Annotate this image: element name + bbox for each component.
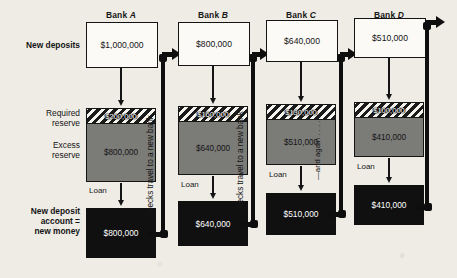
bank-a-new-deposit-box: $1,000,000 — [86, 22, 158, 68]
checks-travel-label-b-to-c: Checks travel to a new bank — [236, 111, 245, 214]
bank-column-d: Bank D $510,000 $100,000 $410,000 Loan $… — [346, 0, 432, 278]
money-multiplier-diagram: New deposits Required reserve Excess res… — [0, 0, 457, 278]
bank-c-title: Bank C — [258, 10, 344, 20]
bank-b-title: Bank B — [170, 10, 256, 20]
caption-required-reserve-line2: reserve — [4, 118, 80, 128]
bank-b-loan-arrow — [212, 176, 214, 194]
bank-column-c: Bank C $640,000 $130,000 $510,000 Loan $… — [258, 0, 344, 278]
bank-b-loan-label: Loan — [181, 180, 199, 189]
caption-excess-reserve: Excess reserve — [4, 140, 80, 160]
caption-new-deposit-account-line1: New deposit — [4, 206, 80, 216]
caption-new-deposit-account: New deposit account = new money — [4, 206, 80, 236]
caption-required-reserve-line1: Required — [4, 108, 80, 118]
bank-c-deposit-to-reserve-arrow — [300, 62, 302, 97]
bank-c-new-money-box: $510,000 — [266, 193, 336, 235]
caption-new-deposit-account-line2: account = — [4, 216, 80, 226]
bank-c-title-prefix: Bank — [286, 10, 310, 20]
checks-travel-label-a-to-b: Checks travel to a new bank — [146, 115, 155, 218]
bank-a-loan-arrow — [120, 183, 122, 201]
and-again-label: —and again . . . . . — [313, 116, 322, 180]
bank-d-new-money-box: $410,000 — [354, 185, 424, 225]
bank-d-reserve-stack: $100,000 $410,000 — [354, 102, 424, 157]
bank-a-required-reserve: $200,000 — [87, 109, 155, 124]
bank-d-deposit-to-reserve-arrow — [388, 58, 390, 95]
bank-d-required-reserve: $100,000 — [355, 103, 423, 118]
bank-b-new-deposit-box: $800,000 — [178, 22, 250, 66]
bank-c-excess-reserve: $510,000 — [267, 120, 335, 164]
bank-b-deposit-to-reserve-arrow — [212, 66, 214, 99]
bank-a-deposit-to-reserve-arrow — [120, 68, 122, 101]
bank-a-title-letter: A — [130, 10, 136, 20]
bank-c-loan-arrow — [300, 166, 302, 186]
bank-a-loan-label: Loan — [89, 186, 107, 195]
bank-c-reserve-stack: $130,000 $510,000 — [266, 104, 336, 165]
bank-b-title-letter: B — [222, 10, 228, 20]
caption-excess-reserve-line1: Excess — [4, 140, 80, 150]
bank-d-loan-label: Loan — [357, 162, 375, 171]
bank-c-title-letter: C — [310, 10, 316, 20]
bank-d-new-deposit-box: $510,000 — [354, 18, 426, 58]
caption-new-deposit-account-line3: new money — [4, 226, 80, 236]
bank-a-excess-reserve: $800,000 — [87, 124, 155, 181]
bank-a-title-prefix: Bank — [106, 10, 130, 20]
bank-c-required-reserve: $130,000 — [267, 105, 335, 120]
bank-b-title-prefix: Bank — [198, 10, 222, 20]
caption-new-deposits: New deposits — [4, 40, 80, 50]
bank-a-title: Bank A — [78, 10, 164, 20]
bank-d-excess-reserve: $410,000 — [355, 118, 423, 156]
caption-excess-reserve-line2: reserve — [4, 150, 80, 160]
bank-c-new-deposit-box: $640,000 — [266, 20, 338, 62]
caption-required-reserve: Required reserve — [4, 108, 80, 128]
bank-d-loan-arrow — [388, 158, 390, 178]
bank-c-loan-label: Loan — [269, 170, 287, 179]
